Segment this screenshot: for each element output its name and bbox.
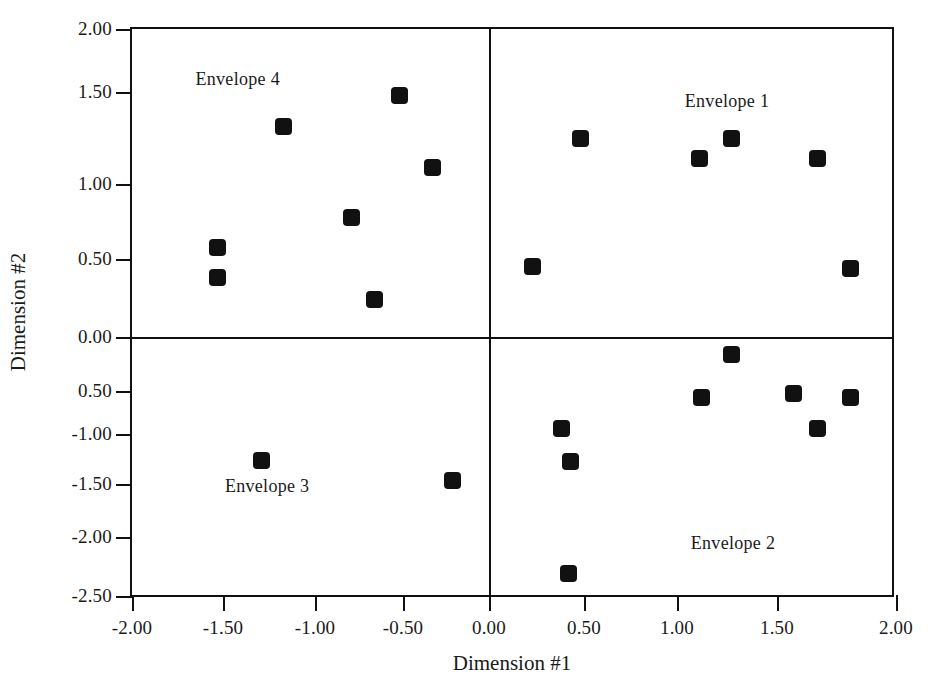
y-axis-tick-mark (116, 29, 132, 31)
x-axis-tick-mark (777, 595, 779, 611)
data-point (553, 420, 570, 437)
data-point (572, 130, 589, 147)
data-point (343, 209, 360, 226)
x-axis-tick-mark (677, 595, 679, 611)
y-axis-tick-label: 0.50 (78, 248, 112, 270)
y-axis-tick-label: -1.00 (71, 423, 112, 445)
scatter-plot-figure: Dimension #2 2.001.501.000.500.000.50-1.… (0, 0, 928, 684)
data-point (209, 239, 226, 256)
y-axis-tick-mark (116, 337, 132, 339)
y-axis-tick-label: -1.50 (71, 473, 112, 495)
quadrant-label: Envelope 4 (195, 69, 279, 90)
x-axis-tick-label: -1.50 (203, 617, 244, 639)
x-axis-tick-mark (403, 595, 405, 611)
y-axis-tick-label: 1.50 (78, 81, 112, 103)
y-axis-tick-label: -2.00 (71, 526, 112, 548)
y-axis-tick-mark (116, 184, 132, 186)
y-axis-title: Dimension #2 (6, 253, 31, 371)
y-axis-tick-label: 0.00 (78, 326, 112, 348)
data-point (693, 389, 710, 406)
x-axis-tick-label: 0.50 (567, 617, 601, 639)
data-point (691, 150, 708, 167)
quadrant-label: Envelope 1 (685, 91, 769, 112)
y-axis-tick-mark (116, 484, 132, 486)
x-axis-tick-label: 2.00 (879, 617, 913, 639)
x-axis-tick-label: 0.00 (472, 617, 506, 639)
data-point (253, 452, 270, 469)
quadrant-label: Envelope 2 (691, 532, 775, 553)
x-axis-tick-label: 1.50 (760, 617, 794, 639)
x-axis-tick-mark (489, 595, 491, 611)
data-point (444, 472, 461, 489)
x-axis-tick-mark (896, 595, 898, 611)
y-axis-tick-label: 1.00 (78, 173, 112, 195)
data-point (424, 159, 441, 176)
x-axis-tick-mark (584, 595, 586, 611)
x-axis-tick-mark (223, 595, 225, 611)
x-axis-tick-label: 1.00 (660, 617, 694, 639)
data-point (809, 420, 826, 437)
y-axis-tick-label: 0.50 (78, 380, 112, 402)
quadrant-label: Envelope 3 (225, 476, 309, 497)
y-axis-tick-mark (116, 391, 132, 393)
data-point (366, 291, 383, 308)
data-point (842, 260, 859, 277)
y-axis-tick-mark (116, 537, 132, 539)
data-point (275, 118, 292, 135)
x-axis-tick-label: -2.00 (112, 617, 153, 639)
y-axis-tick-mark (116, 92, 132, 94)
data-point (723, 130, 740, 147)
data-point (560, 565, 577, 582)
data-point (809, 150, 826, 167)
y-axis-tick-label: -2.50 (71, 585, 112, 607)
data-point (391, 87, 408, 104)
data-point (562, 453, 579, 470)
y-axis-tick-mark (116, 434, 132, 436)
plot-area: 2.001.501.000.500.000.50-1.00-1.50-2.00-… (130, 27, 894, 597)
horizontal-zero-reference-line (132, 337, 892, 339)
data-point (209, 269, 226, 286)
y-axis-tick-mark (116, 259, 132, 261)
y-axis-tick-label: 2.00 (78, 18, 112, 40)
x-axis-tick-label: -1.00 (295, 617, 336, 639)
data-point (723, 346, 740, 363)
x-axis-tick-label: -0.50 (383, 617, 424, 639)
x-axis-tick-mark (132, 595, 134, 611)
data-point (785, 385, 802, 402)
y-axis-tick-mark (116, 596, 132, 598)
x-axis-tick-mark (315, 595, 317, 611)
x-axis-title: Dimension #1 (132, 651, 892, 676)
data-point (524, 258, 541, 275)
vertical-zero-reference-line (489, 29, 491, 595)
data-point (842, 389, 859, 406)
